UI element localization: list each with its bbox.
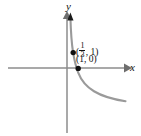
math-figure: y x (13, 1) (1, 0) bbox=[0, 0, 141, 136]
x-axis-label: x bbox=[130, 62, 135, 73]
fraction-numerator: 1 bbox=[79, 42, 85, 50]
graph-canvas bbox=[0, 0, 141, 136]
y-axis-label: y bbox=[66, 1, 71, 12]
point-label-one-zero: (1, 0) bbox=[76, 55, 97, 65]
point-marker-one-zero bbox=[76, 66, 81, 71]
